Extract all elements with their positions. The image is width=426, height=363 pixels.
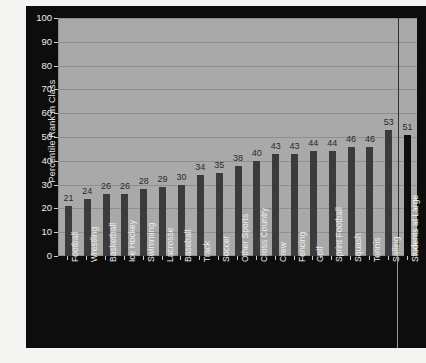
reference-separator xyxy=(398,18,399,256)
x-category-label: Other Sports xyxy=(241,214,250,262)
y-tick-label: 10 xyxy=(26,227,52,237)
y-tick-label: 80 xyxy=(26,61,52,71)
bar xyxy=(310,151,317,256)
plot-area: 21242626282930343538404343444446465351 xyxy=(58,18,417,256)
y-tick-mark xyxy=(54,256,58,257)
x-category-label: Cross Country xyxy=(260,208,269,262)
x-category-label: Fencing xyxy=(298,232,307,262)
x-tick-mark xyxy=(237,256,238,260)
chart-panel: Percentile Rank in Class 010203040506070… xyxy=(26,6,426,348)
y-tick-label: 30 xyxy=(26,180,52,190)
gridline xyxy=(59,113,417,114)
y-tick-label: 20 xyxy=(26,203,52,213)
x-tick-mark xyxy=(218,256,219,260)
x-tick-mark xyxy=(312,256,313,260)
y-tick-label: 90 xyxy=(26,37,52,47)
x-category-label: Lacrosse xyxy=(166,228,175,263)
y-tick-label: 0 xyxy=(26,251,52,261)
x-tick-mark xyxy=(256,256,257,260)
x-tick-mark xyxy=(350,256,351,260)
x-tick-mark xyxy=(143,256,144,260)
gridline xyxy=(59,89,417,90)
x-tick-mark xyxy=(180,256,181,260)
chart-figure: Percentile Rank in Class 010203040506070… xyxy=(0,0,426,363)
x-tick-mark xyxy=(105,256,106,260)
x-category-label: Tennis xyxy=(373,237,382,262)
x-category-label: Ice Hockey xyxy=(128,220,137,262)
bar-value-label: 51 xyxy=(396,123,420,132)
x-category-label: Baseball xyxy=(184,229,193,262)
x-tick-mark xyxy=(67,256,68,260)
x-category-label: Squash xyxy=(354,233,363,262)
x-tick-mark xyxy=(294,256,295,260)
y-tick-label: 40 xyxy=(26,156,52,166)
reference-separator-extension xyxy=(397,256,398,348)
x-tick-mark xyxy=(388,256,389,260)
bar-value-label: 30 xyxy=(169,173,193,182)
x-category-label: Track xyxy=(203,241,212,262)
x-category-label: Students at Large xyxy=(411,195,420,262)
gridline xyxy=(59,42,417,43)
x-tick-mark xyxy=(86,256,87,260)
gridline xyxy=(59,66,417,67)
x-tick-mark xyxy=(331,256,332,260)
x-category-label: Swimming xyxy=(147,223,156,262)
x-category-label: Golf xyxy=(316,246,325,262)
bar-value-label: 46 xyxy=(358,135,382,144)
gridline xyxy=(59,18,417,19)
x-tick-mark xyxy=(407,256,408,260)
y-tick-label: 100 xyxy=(26,13,52,23)
x-tick-mark xyxy=(369,256,370,260)
x-category-label: Soccer xyxy=(222,236,231,262)
bar xyxy=(272,154,279,256)
x-category-label: Sailing xyxy=(392,236,401,262)
y-tick-label: 60 xyxy=(26,108,52,118)
y-tick-label: 50 xyxy=(26,132,52,142)
x-tick-mark xyxy=(199,256,200,260)
x-tick-mark xyxy=(162,256,163,260)
x-tick-mark xyxy=(275,256,276,260)
x-category-label: Football xyxy=(71,232,80,262)
x-category-label: Sprint Football xyxy=(335,207,344,262)
x-tick-mark xyxy=(124,256,125,260)
y-tick-label: 70 xyxy=(26,84,52,94)
x-category-label: Basketball xyxy=(109,223,118,262)
x-category-label: Crew xyxy=(279,242,288,262)
x-category-label: Wrestling xyxy=(90,227,99,262)
